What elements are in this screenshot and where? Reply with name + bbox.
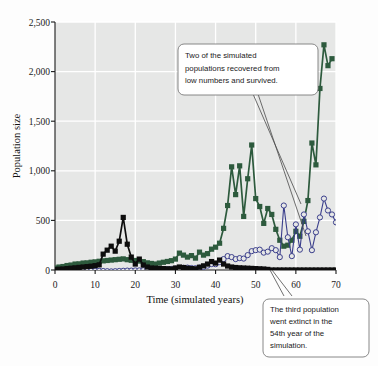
series-marker <box>257 204 262 209</box>
x-tick-label: 70 <box>331 280 341 290</box>
x-axis-tick-labels: 0 10 20 30 40 50 60 70 <box>53 280 341 290</box>
y-axis-ticks <box>51 22 55 270</box>
series-marker <box>129 255 134 260</box>
callout-extinct-line1: The third population <box>270 305 339 314</box>
series-marker <box>113 249 118 254</box>
callout-extinct-line3: 54th year of the <box>270 329 324 338</box>
series-marker <box>305 229 310 234</box>
series-marker <box>293 222 298 227</box>
series-marker <box>281 203 286 208</box>
x-tick-label: 0 <box>53 280 58 290</box>
series-marker <box>253 196 258 201</box>
chart-canvas: 2,500 2,000 1,500 1,000 500 0 0 10 20 30… <box>0 0 378 366</box>
series-marker <box>125 242 130 247</box>
x-tick-label: 10 <box>90 280 100 290</box>
series-marker <box>229 164 234 169</box>
x-tick-label: 30 <box>171 280 181 290</box>
x-axis-ticks <box>55 270 336 274</box>
y-axis-tick-labels: 2,500 2,000 1,500 1,000 500 0 <box>29 18 51 276</box>
series-marker <box>261 221 266 226</box>
callout-recovered: Two of the simulated populations recover… <box>178 44 318 95</box>
series-marker <box>313 162 318 167</box>
series-marker <box>333 220 338 225</box>
y-tick-label: 1,000 <box>29 166 51 176</box>
series-marker <box>273 227 278 232</box>
series-marker <box>137 256 142 261</box>
series-marker <box>133 261 138 266</box>
series-marker <box>301 212 306 217</box>
callout-extinct-line2: went extinct in the <box>269 317 332 326</box>
series-marker <box>321 196 326 201</box>
series-marker <box>237 163 242 168</box>
series-marker <box>205 251 210 256</box>
series-marker <box>313 230 318 235</box>
series-marker <box>265 206 270 211</box>
series-marker <box>317 215 322 220</box>
series-marker <box>269 212 274 217</box>
y-tick-label: 500 <box>36 216 51 226</box>
series-marker <box>233 192 238 197</box>
callout-recovered-line3: low numbers and survived. <box>185 76 278 85</box>
callout-extinct-line4: simulation. <box>270 341 307 350</box>
series-marker <box>221 226 226 231</box>
x-tick-label: 40 <box>211 280 221 290</box>
x-tick-label: 50 <box>251 280 261 290</box>
series-marker <box>121 215 126 220</box>
series-marker <box>329 212 334 217</box>
x-tick-label: 60 <box>291 280 301 290</box>
y-tick-label: 1,500 <box>29 117 51 127</box>
x-tick-label: 20 <box>131 280 141 290</box>
population-simulation-figure: 2,500 2,000 1,500 1,000 500 0 0 10 20 30… <box>0 0 378 366</box>
series-marker <box>193 256 198 261</box>
callout-recovered-line1: Two of the simulated <box>185 51 257 60</box>
callout-recovered-line2: populations recovered from <box>185 64 279 73</box>
series-marker <box>173 256 178 261</box>
series-marker <box>225 203 230 208</box>
series-marker <box>249 142 254 147</box>
series-marker <box>309 140 314 145</box>
series-marker <box>241 214 246 219</box>
series-marker <box>321 42 326 47</box>
x-axis-title: Time (simulated years) <box>146 294 244 306</box>
series-marker <box>305 198 310 203</box>
series-marker <box>97 262 102 267</box>
y-axis-title: Population size <box>11 113 22 178</box>
series-marker <box>277 255 282 260</box>
callout-extinct: The third population went extinct in the… <box>263 299 369 357</box>
y-tick-label: 0 <box>45 266 50 276</box>
y-tick-label: 2,000 <box>29 67 51 77</box>
series-marker <box>333 0 338 5</box>
series-marker <box>329 56 334 61</box>
series-marker <box>273 248 278 253</box>
series-marker <box>309 248 314 253</box>
series-marker <box>325 63 330 68</box>
series-marker <box>245 176 250 181</box>
series-marker <box>117 239 122 244</box>
series-marker <box>289 254 294 259</box>
y-tick-label: 2,500 <box>29 18 51 28</box>
series-marker <box>217 241 222 246</box>
series-marker <box>297 247 302 252</box>
series-marker <box>109 244 114 249</box>
series-marker <box>285 235 290 240</box>
